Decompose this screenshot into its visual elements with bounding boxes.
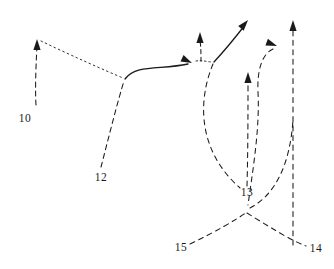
figure-label-15: 15 [175,241,188,253]
figure-canvas: 10 12 13 14 15 [0,0,334,269]
path-dotted-short-mid [196,61,212,62]
figure-label-12: 12 [95,171,108,183]
path-curve-left-lobe [204,64,240,188]
path-dotted-10-to-junction [41,41,123,78]
arrow-right-curve [265,39,278,50]
arrow-diagonal-top [238,18,251,31]
arrow-mid-up [196,32,203,43]
trajectory-diagram [0,0,334,269]
path-curve-right-lobe-up [250,120,293,208]
path-curve-right-from-arrow [248,49,273,205]
path-curve-15-to-cross [190,212,247,244]
arrow-right-top [289,20,296,31]
path-solid-main [125,64,188,79]
path-vertical-13 [247,82,248,186]
path-stem-arrow-up-mid [200,40,201,61]
path-branch-12 [101,81,124,167]
arrowhead-layer [33,18,296,83]
arrow-13-up [244,72,251,83]
path-curve-cross-to-14 [247,213,306,246]
figure-label-10: 10 [19,112,32,124]
figure-label-13: 13 [241,186,254,198]
path-solid-diagonal [214,25,245,62]
arrow-10-top [33,39,40,50]
figure-label-14: 14 [310,242,323,254]
path-branch-10 [36,47,37,105]
